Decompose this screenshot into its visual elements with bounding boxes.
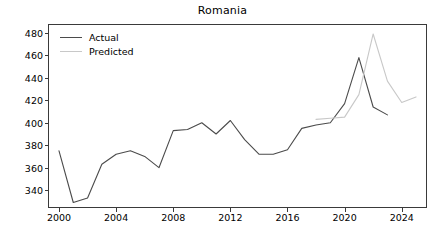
legend-item-actual[interactable]: Actual <box>60 30 134 44</box>
x-tick-label: 2008 <box>161 212 185 223</box>
legend-label: Predicted <box>89 46 134 57</box>
page-title: Romania <box>0 4 445 17</box>
y-tick-label: 440 <box>3 72 43 83</box>
y-tick-label: 460 <box>3 50 43 61</box>
x-tick-label: 2012 <box>218 212 242 223</box>
x-tick-mark <box>116 208 117 212</box>
x-tick-mark <box>173 208 174 212</box>
y-tick-label: 420 <box>3 95 43 106</box>
x-tick-label: 2016 <box>275 212 299 223</box>
x-tick-label: 2024 <box>390 212 414 223</box>
y-tick-label: 480 <box>3 27 43 38</box>
legend: ActualPredicted <box>56 28 138 61</box>
series-line-actual <box>59 58 387 203</box>
x-tick-mark <box>59 208 60 212</box>
x-tick-mark <box>230 208 231 212</box>
legend-swatch-predicted <box>60 51 82 52</box>
series-line-predicted <box>316 34 416 119</box>
y-tick-label: 360 <box>3 162 43 173</box>
x-tick-label: 2020 <box>333 212 357 223</box>
x-tick-mark <box>402 208 403 212</box>
y-tick-label: 380 <box>3 140 43 151</box>
legend-swatch-actual <box>60 37 82 38</box>
x-tick-label: 2004 <box>104 212 128 223</box>
chart-figure: Romania 340360380400420440460480 2000200… <box>0 0 445 240</box>
x-tick-label: 2000 <box>47 212 71 223</box>
legend-label: Actual <box>89 32 119 43</box>
legend-item-predicted[interactable]: Predicted <box>60 44 134 58</box>
y-tick-label: 400 <box>3 117 43 128</box>
y-tick-label: 340 <box>3 185 43 196</box>
x-tick-mark <box>345 208 346 212</box>
x-tick-mark <box>287 208 288 212</box>
